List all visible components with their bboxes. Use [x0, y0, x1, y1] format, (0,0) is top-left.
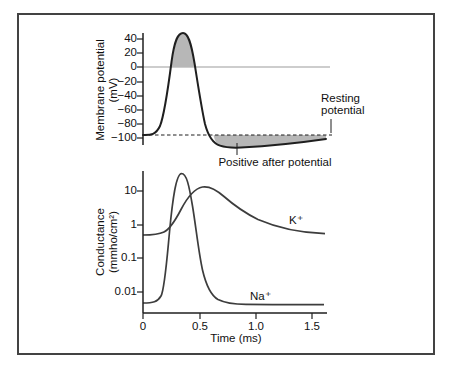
- resting-potential-annotation: Resting potential: [321, 92, 364, 116]
- conductance-ytick-0p01: 0.01: [99, 285, 137, 298]
- resting-potential-annotation-line2: potential: [321, 104, 364, 116]
- membrane-ytick-n40: −40: [99, 89, 137, 102]
- membrane-ytick-n60: −60: [99, 103, 137, 116]
- resting-potential-annotation-line1: Resting: [321, 92, 364, 104]
- time-xtick-1p5: 1.5: [294, 320, 330, 333]
- conductance-ytick-10: 10: [99, 184, 137, 197]
- conductance-ytick-0p1: 0.1: [99, 251, 137, 264]
- k-curve-label: K⁺: [289, 214, 303, 227]
- figure-canvas: Membrane potential (mV) 40 20 0 −20 −40 …: [0, 0, 449, 372]
- membrane-ytick-n100: −100: [99, 131, 137, 144]
- membrane-potential-plot: [137, 33, 332, 155]
- conductance-ytick-1: 1: [99, 218, 137, 231]
- time-xtick-0: 0: [125, 320, 161, 333]
- time-axis-title: Time (ms): [192, 332, 280, 345]
- action-potential-curve: [143, 33, 326, 148]
- conductance-plot: [137, 171, 327, 319]
- membrane-ytick-n20: −20: [99, 75, 137, 88]
- after-potential-annotation: Positive after potential: [205, 156, 345, 169]
- na-curve-label: Na⁺: [250, 290, 271, 303]
- membrane-ytick-40: 40: [99, 32, 137, 45]
- conductance-x-tick-marks: [143, 313, 312, 319]
- na-conductance-curve: [143, 174, 324, 305]
- membrane-ytick-n80: −80: [99, 117, 137, 130]
- conductance-y-tick-marks: [137, 191, 143, 292]
- membrane-y-tick-marks: [137, 39, 143, 138]
- membrane-ytick-0: 0: [99, 60, 137, 73]
- charts-svg: [0, 0, 449, 372]
- membrane-ytick-20: 20: [99, 46, 137, 59]
